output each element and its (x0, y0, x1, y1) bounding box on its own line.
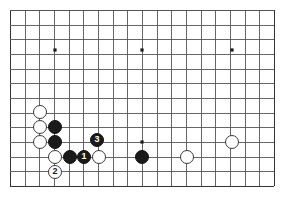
go-diagram: 132 (0, 0, 282, 200)
go-board-grid (0, 0, 282, 200)
move-number-label: 3 (94, 135, 99, 144)
move-number-label: 2 (52, 167, 57, 176)
move-number-label: 1 (81, 152, 86, 161)
